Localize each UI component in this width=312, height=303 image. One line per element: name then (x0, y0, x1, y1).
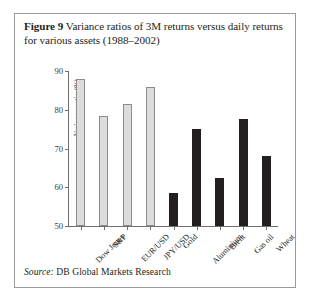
x-axis-tick-label: Wheat (276, 233, 297, 254)
bar-brent (215, 178, 224, 226)
bar-gold (169, 193, 178, 226)
y-axis-tick-label: 50 (54, 222, 63, 231)
y-axis-tick-label: 60 (54, 183, 63, 192)
x-axis-tick (220, 226, 221, 230)
bar-gas-oil (239, 119, 248, 226)
y-axis-tick (65, 226, 69, 227)
bar-wheat (262, 156, 271, 226)
figure-label: Figure 9 (24, 20, 63, 32)
x-axis-tick-label: Brent (228, 233, 247, 252)
figure-caption: Figure 9 Variance ratios of 3M returns v… (24, 19, 286, 47)
x-axis-tick (243, 226, 244, 230)
x-axis-tick (266, 226, 267, 230)
x-axis-tick (174, 226, 175, 230)
bar-aluminium (192, 129, 201, 226)
y-axis-tick-label: 80 (54, 105, 63, 114)
x-axis-tick (127, 226, 128, 230)
bar-series (69, 71, 278, 226)
x-axis-tick (150, 226, 151, 230)
source-text: DB Global Markets Research (56, 266, 171, 277)
x-axis-tick (81, 226, 82, 230)
x-axis-tick (197, 226, 198, 230)
bar-s-p (99, 116, 108, 226)
y-axis-tick-label: 70 (54, 144, 63, 153)
x-axis-tick-label: Gas oil (253, 233, 276, 256)
bar-dow-jones (76, 79, 85, 226)
chart-area: Variance ratio (%) 5060708090 Dow JonesS… (24, 51, 289, 243)
x-axis-tick-label: S&P (111, 233, 128, 250)
figure-title: Variance ratios of 3M returns versus dai… (24, 20, 283, 46)
plot-frame: 5060708090 Dow JonesS&PEUR/USDJPY/USDGol… (68, 71, 278, 227)
x-axis-tick (104, 226, 105, 230)
figure-box: Figure 9 Variance ratios of 3M returns v… (14, 13, 296, 288)
source-note: Source: DB Global Markets Research (24, 266, 171, 277)
y-axis-tick-label: 90 (54, 67, 63, 76)
bar-eur-usd (123, 104, 132, 226)
source-label: Source: (24, 266, 54, 277)
bar-jpy-usd (146, 87, 155, 227)
